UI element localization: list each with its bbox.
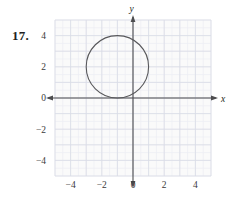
y-tick-label: 0 bbox=[41, 93, 46, 103]
x-tick-label: 4 bbox=[193, 180, 198, 190]
y-tick-label: 4 bbox=[41, 31, 46, 41]
y-tick-label: −4 bbox=[36, 156, 46, 166]
x-axis-label: x bbox=[220, 94, 226, 104]
x-tick-label: −2 bbox=[97, 180, 107, 190]
x-tick-label: 2 bbox=[162, 180, 167, 190]
x-tick-labels: −4−2024 bbox=[66, 180, 198, 190]
x-axis-arrow-left bbox=[46, 96, 53, 101]
x-tick-label: 0 bbox=[131, 180, 136, 190]
x-axis-arrow-right bbox=[211, 96, 218, 101]
x-tick-label: −4 bbox=[66, 180, 76, 190]
y-axis-arrow-up bbox=[131, 15, 136, 22]
y-tick-label: 2 bbox=[41, 62, 46, 72]
exercise-figure: 17. x y −4−2024 420−2−4 bbox=[0, 0, 229, 197]
y-tick-label: −2 bbox=[36, 125, 46, 135]
y-tick-labels: 420−2−4 bbox=[36, 31, 46, 166]
y-axis-label: y bbox=[129, 4, 135, 14]
coordinate-plane-graph: x y −4−2024 420−2−4 bbox=[0, 0, 229, 197]
